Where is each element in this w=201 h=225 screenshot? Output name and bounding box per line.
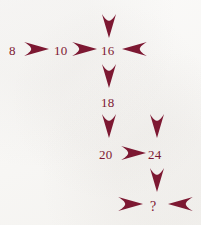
- arrow-right-icon: [116, 196, 143, 212]
- arrow-right-icon: [70, 41, 97, 57]
- arrow-down-icon: [101, 62, 117, 88]
- arrow-down-icon: [149, 166, 165, 192]
- arrow-left-icon: [168, 196, 195, 212]
- arrow-down-icon: [101, 12, 117, 38]
- puzzle-diagram: 81016182024?: [0, 0, 201, 225]
- number-node-8: 8: [9, 44, 16, 57]
- arrow-right-icon: [119, 145, 146, 161]
- number-node-20: 20: [99, 148, 112, 161]
- answer-placeholder: ?: [150, 200, 156, 214]
- arrow-down-icon: [101, 112, 117, 138]
- number-node-24: 24: [148, 148, 161, 161]
- number-node-18: 18: [101, 96, 114, 109]
- arrow-right-icon: [22, 41, 49, 57]
- number-node-10: 10: [54, 44, 67, 57]
- number-node-16: 16: [101, 44, 114, 57]
- arrow-down-icon: [149, 112, 165, 138]
- arrow-left-icon: [122, 41, 149, 57]
